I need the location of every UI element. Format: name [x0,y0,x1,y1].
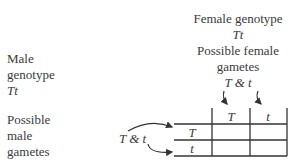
arrow-female-T [223,91,227,104]
arrow-male-T [128,123,172,131]
arrow-female-t [257,91,261,104]
row-header-t: t [190,141,194,156]
arrow-male-t [148,144,172,152]
row-header-T: T [188,125,195,140]
column-header-T: T [227,109,234,124]
column-header-t: t [266,109,270,124]
punnett-diagram [0,0,298,168]
